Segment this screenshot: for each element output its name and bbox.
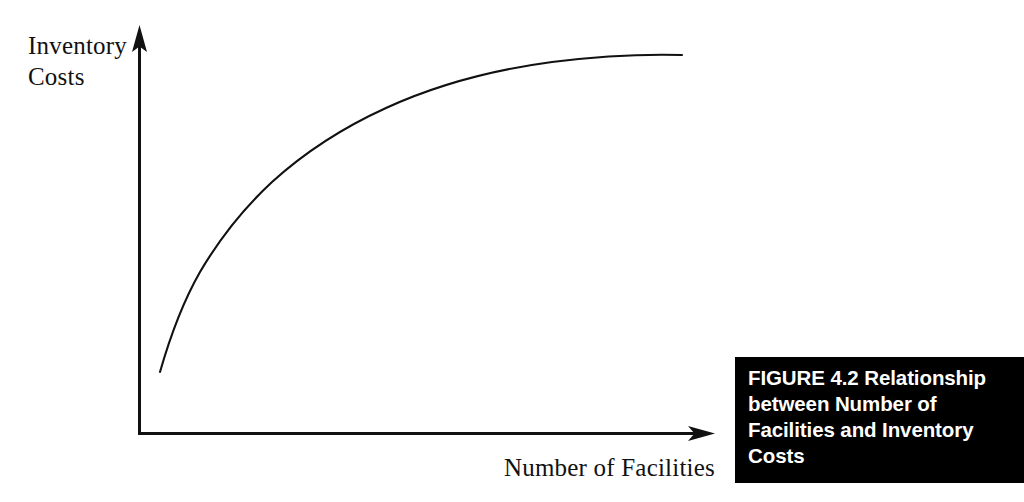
inventory-cost-curve	[160, 55, 682, 372]
figure-caption-text: FIGURE 4.2 Relationship between Number o…	[748, 365, 1014, 469]
figure-caption-box: FIGURE 4.2 Relationship between Number o…	[735, 357, 1024, 483]
x-axis-label: Number of Facilities	[504, 453, 715, 483]
figure-page: Inventory Costs Number of Facilities FIG…	[0, 0, 1024, 502]
